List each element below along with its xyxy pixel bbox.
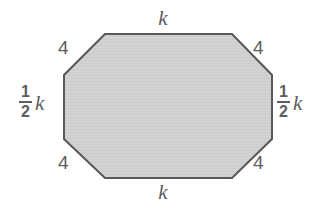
octagon-shape: [64, 34, 272, 178]
label-corner-top-right-4: 4: [253, 38, 264, 57]
fraction-one-half-right: 1 2: [277, 84, 290, 121]
fraction-one-half-left: 1 2: [19, 84, 32, 121]
label-corner-top-left-4: 4: [58, 38, 69, 57]
fraction-denominator: 2: [20, 103, 31, 120]
fraction-variable-k: k: [293, 91, 302, 116]
label-left-side-half-k: 1 2 k: [19, 84, 44, 121]
fraction-numerator: 1: [20, 84, 31, 101]
fraction-variable-k: k: [35, 91, 44, 116]
label-bottom-side-k: k: [0, 182, 326, 203]
label-corner-bottom-right-4: 4: [253, 153, 264, 172]
fraction-numerator: 1: [278, 84, 289, 101]
label-right-side-half-k: 1 2 k: [277, 84, 302, 121]
label-corner-bottom-left-4: 4: [58, 153, 69, 172]
label-top-side-k: k: [0, 8, 326, 29]
figure-canvas: k k 4 4 4 4 1 2 k 1 2 k: [0, 0, 326, 209]
fraction-denominator: 2: [278, 103, 289, 120]
